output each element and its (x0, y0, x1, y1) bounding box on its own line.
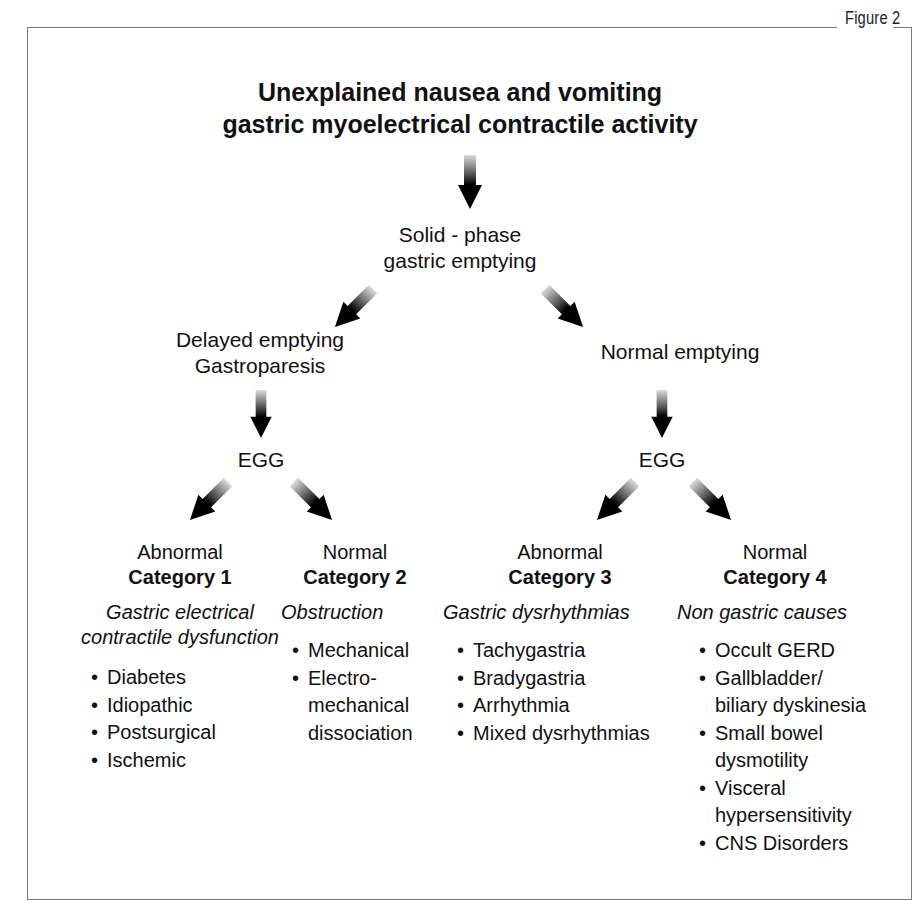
list-item-text: Occult GERD (715, 639, 835, 661)
node-normal-emptying: Normal emptying (540, 339, 820, 365)
category-3-list: •Tachygastria •Bradygastria •Arrhythmia … (455, 637, 650, 747)
list-item: •Mechanical (290, 637, 413, 665)
list-item: •Bradygastria (455, 665, 650, 693)
list-item: •Tachygastria (455, 637, 650, 665)
arrow-down-icon (250, 390, 272, 438)
category-4-list: •Occult GERD •Gallbladder/biliary dyskin… (697, 637, 866, 857)
bullet-icon: • (91, 664, 98, 692)
node-delayed-emptying: Delayed emptying Gastroparesis (120, 327, 400, 379)
node-egg-right: EGG (612, 447, 712, 472)
node-solid-phase-line-1: Solid - phase (300, 222, 620, 248)
list-item-text: Small bowel (715, 722, 823, 744)
category-3-result: Abnormal (480, 540, 640, 565)
arrow-down-left-icon (197, 474, 221, 528)
list-item-text-continued: mechanical (308, 692, 413, 720)
list-item-text: CNS Disorders (715, 832, 848, 854)
category-4-header: Normal Category 4 (700, 540, 850, 590)
list-item-text: Idiopathic (107, 694, 193, 716)
list-item-text-continued: hypersensitivity (715, 802, 866, 830)
list-item: •Diabetes (89, 664, 216, 692)
list-item-text: Ischemic (107, 749, 186, 771)
bullet-icon: • (91, 747, 98, 775)
category-4-result: Normal (700, 540, 850, 565)
frame-border-bottom (27, 899, 912, 900)
category-1-title: Category 1 (90, 565, 270, 590)
list-item: •Visceralhypersensitivity (697, 775, 866, 830)
category-4-title: Category 4 (700, 565, 850, 590)
category-2-title: Category 2 (280, 565, 430, 590)
list-item-text: Visceral (715, 777, 786, 799)
list-item: •Mixed dysrhythmias (455, 720, 650, 748)
bullet-icon: • (292, 637, 299, 665)
arrow-down-left-icon (604, 474, 628, 528)
list-item: •Occult GERD (697, 637, 866, 665)
category-3-title: Category 3 (480, 565, 640, 590)
arrow-down-right-icon (552, 281, 576, 335)
node-egg-left: EGG (211, 447, 311, 472)
bullet-icon: • (91, 692, 98, 720)
list-item: •CNS Disorders (697, 830, 866, 858)
bullet-icon: • (292, 665, 299, 693)
bullet-icon: • (457, 637, 464, 665)
title-line-2: gastric myoelectrical contractile activi… (0, 108, 920, 140)
node-solid-phase-gastric-emptying: Solid - phase gastric emptying (300, 222, 620, 274)
frame-border-top (27, 27, 837, 28)
list-item: •Gallbladder/biliary dyskinesia (697, 665, 866, 720)
category-1-description-line-2: contractile dysfunction (35, 625, 325, 650)
frame-border-right (911, 27, 912, 900)
bullet-icon: • (699, 720, 706, 748)
frame-border-top-right (893, 27, 912, 28)
category-2-header: Normal Category 2 (280, 540, 430, 590)
list-item: •Small boweldysmotility (697, 720, 866, 775)
list-item-text: Postsurgical (107, 721, 216, 743)
bullet-icon: • (457, 692, 464, 720)
category-1-list: •Diabetes •Idiopathic •Postsurgical •Isc… (89, 664, 216, 774)
arrow-down-right-icon (700, 474, 724, 528)
list-item-text: Bradygastria (473, 667, 585, 689)
list-item-text: Arrhythmia (473, 694, 570, 716)
bullet-icon: • (457, 720, 464, 748)
list-item: •Electro-mechanicaldissociation (290, 665, 413, 748)
list-item-text-continued: biliary dyskinesia (715, 692, 866, 720)
list-item-text: Diabetes (107, 666, 186, 688)
list-item: •Ischemic (89, 747, 216, 775)
category-1-header: Abnormal Category 1 (90, 540, 270, 590)
bullet-icon: • (457, 665, 464, 693)
list-item-text: Gallbladder/ (715, 667, 823, 689)
list-item-text-continued: dysmotility (715, 747, 866, 775)
bullet-icon: • (91, 719, 98, 747)
title-line-1: Unexplained nausea and vomiting (0, 76, 920, 108)
arrow-down-icon (651, 390, 673, 438)
list-item-text: Mixed dysrhythmias (473, 722, 650, 744)
category-2-description: Obstruction (281, 600, 383, 625)
bullet-icon: • (699, 775, 706, 803)
frame-border-left (27, 27, 28, 900)
list-item-text-continued: dissociation (308, 720, 413, 748)
list-item: •Postsurgical (89, 719, 216, 747)
bullet-icon: • (699, 637, 706, 665)
node-solid-phase-line-2: gastric emptying (300, 248, 620, 274)
list-item: •Idiopathic (89, 692, 216, 720)
list-item: •Arrhythmia (455, 692, 650, 720)
node-delayed-line-1: Delayed emptying (120, 327, 400, 353)
category-2-result: Normal (280, 540, 430, 565)
category-1-result: Abnormal (90, 540, 270, 565)
list-item-text: Mechanical (308, 639, 409, 661)
bullet-icon: • (699, 830, 706, 858)
node-delayed-line-2: Gastroparesis (120, 353, 400, 379)
bullet-icon: • (699, 665, 706, 693)
diagram-title: Unexplained nausea and vomiting gastric … (0, 76, 920, 140)
list-item-text: Tachygastria (473, 639, 585, 661)
category-4-description: Non gastric causes (677, 600, 847, 625)
list-item-text: Electro- (308, 667, 377, 689)
category-3-description: Gastric dysrhythmias (443, 600, 630, 625)
category-3-header: Abnormal Category 3 (480, 540, 640, 590)
arrow-down-icon (458, 155, 482, 209)
figure-label: Figure 2 (845, 8, 900, 29)
category-2-list: •Mechanical •Electro-mechanicaldissociat… (290, 637, 413, 747)
arrow-down-right-icon (301, 474, 325, 528)
